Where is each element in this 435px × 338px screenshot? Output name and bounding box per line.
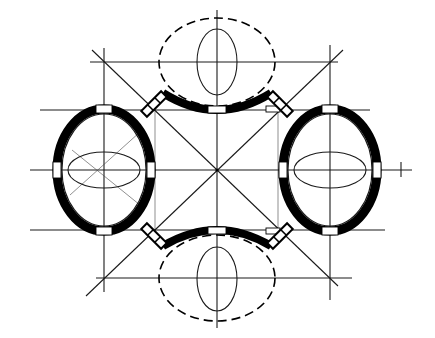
left-opening-top (96, 105, 112, 113)
right-opening-west (279, 162, 287, 178)
center-point (215, 168, 218, 171)
right-opening-east (373, 162, 381, 178)
passage-nw (141, 91, 166, 116)
bottom-arc-opening (208, 227, 226, 234)
diagonal-nw-se (92, 50, 338, 286)
right-opening-bottom (322, 227, 338, 235)
passage-ne (267, 91, 292, 116)
left-opening-east (147, 162, 155, 178)
right-opening-top (322, 105, 338, 113)
passage-se (267, 223, 292, 248)
construction-grid (30, 10, 412, 328)
architectural-diagram (0, 0, 435, 338)
passage-sw (141, 223, 166, 248)
left-chamber-construction-2 (72, 150, 140, 205)
left-opening-bottom (96, 227, 112, 235)
plan-drawing (0, 0, 435, 338)
left-opening-west (53, 162, 61, 178)
left-chamber-construction-1 (70, 132, 140, 195)
top-arc-opening (208, 106, 226, 113)
diagonal-ne-sw (86, 50, 343, 296)
